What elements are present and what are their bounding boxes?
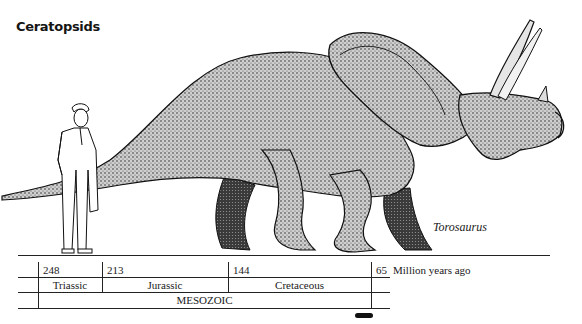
timeline-row-divider-2 <box>18 292 390 293</box>
age-248: 248 <box>43 264 60 276</box>
period-triassic: Triassic <box>38 279 102 291</box>
era-mesozoic: MESOZOIC <box>38 294 371 306</box>
age-144: 144 <box>233 264 250 276</box>
timeline-bottom-line <box>18 308 390 309</box>
dinosaur-illustration <box>0 0 582 260</box>
period-jurassic: Jurassic <box>102 279 228 291</box>
human-scale-figure <box>58 104 98 253</box>
timeline-divider-65 <box>371 262 372 308</box>
ground-line <box>18 255 550 256</box>
age-213: 213 <box>107 264 124 276</box>
unit-label: Million years ago <box>393 264 471 276</box>
period-cretaceous: Cretaceous <box>228 279 371 291</box>
species-label: Torosaurus <box>433 220 487 235</box>
age-65: 65 <box>376 264 387 276</box>
timeline-row-divider-1 <box>18 277 390 278</box>
range-marker-bar <box>355 313 373 318</box>
